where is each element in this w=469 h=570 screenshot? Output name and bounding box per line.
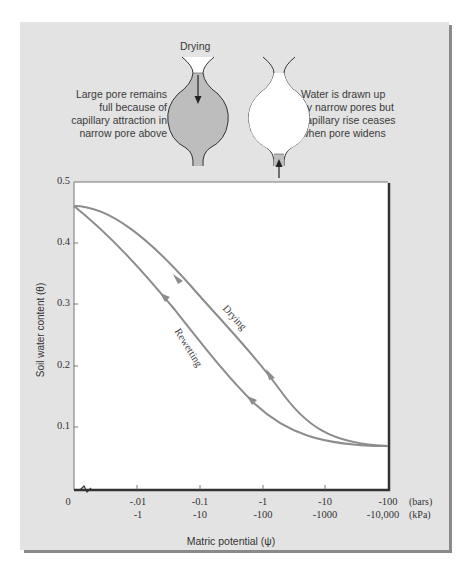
x-unit-kpa: (kPa) xyxy=(409,508,431,521)
rewetting-pore-icon xyxy=(249,57,310,178)
x-tick-kpa: -100 xyxy=(253,508,272,521)
x-tick-bars: -100 xyxy=(378,495,397,508)
plot-area xyxy=(74,182,390,492)
x-tick-bars: 0 xyxy=(65,495,70,508)
x-tick-kpa: -10 xyxy=(193,508,207,521)
y-tick-label: 0.4 xyxy=(40,236,70,247)
x-tick-bars: -10 xyxy=(318,495,332,508)
x-tick-kpa: -1000 xyxy=(313,508,338,521)
drying-pore-icon xyxy=(168,57,229,166)
x-tick-kpa: -10,000 xyxy=(367,508,399,521)
x-tick-bars: -0.1 xyxy=(192,495,209,508)
figure-graphics xyxy=(0,0,469,570)
y-axis-label: Soil water content (θ) xyxy=(35,283,46,378)
y-tick-label: 0.5 xyxy=(40,175,70,186)
x-tick-bars: -.01 xyxy=(130,495,147,508)
x-tick-kpa: -1 xyxy=(134,508,143,521)
x-tick-bars: -1 xyxy=(259,495,268,508)
x-unit-bars: (bars) xyxy=(409,495,432,508)
y-tick-label: 0.1 xyxy=(40,420,70,431)
x-axis-label: Matric potential (ψ) xyxy=(187,535,276,547)
